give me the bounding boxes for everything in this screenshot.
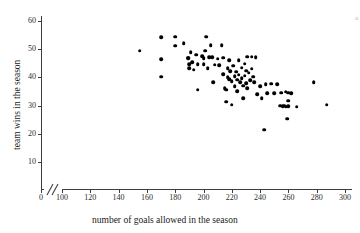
data-point [250,67,254,71]
corner-artifact-mark: a [355,14,358,22]
data-point [243,62,247,66]
data-point [202,63,206,67]
x-tick-label: 220 [226,194,238,202]
y-tick-mark [38,77,42,78]
y-axis-line [41,16,42,190]
data-point [247,71,251,75]
x-tick-label: 120 [84,194,96,202]
data-point [224,100,228,104]
data-point [289,91,293,95]
data-point [258,85,262,89]
data-point [173,44,177,48]
data-point [205,35,209,39]
data-point [312,80,316,84]
data-point [159,35,163,39]
data-point [295,105,299,109]
data-point [230,80,234,84]
data-point [275,82,279,86]
y-tick-mark [38,49,42,50]
y-tick-mark [38,21,42,22]
data-point [230,103,234,107]
x-tick-mark [288,189,289,193]
data-point [229,69,233,73]
data-point [224,88,228,92]
x-tick-mark [90,189,91,193]
x-tick-label: 0 [39,194,43,202]
x-tick-label: 140 [113,194,125,202]
data-point [237,58,241,62]
scatter-plot-figure: 0100120140160180200220240260280300 10203… [0,0,360,233]
x-tick-label: 100 [56,194,68,202]
data-point [260,96,264,100]
data-point [159,75,163,79]
data-point [231,64,235,68]
y-tick-mark [38,162,42,163]
data-point [209,43,213,47]
data-point [240,66,244,70]
data-point [287,99,291,103]
y-tick-mark [38,134,42,135]
x-tick-label: 260 [282,194,294,202]
data-point [188,66,192,70]
data-point [253,81,257,85]
data-point [206,66,210,70]
data-point [217,63,221,67]
x-tick-mark [204,189,205,193]
data-point [213,63,217,67]
data-point [254,55,258,59]
data-point [195,53,199,57]
data-point [212,80,216,84]
data-point [270,82,274,86]
data-point [264,82,268,86]
data-point [216,57,220,61]
x-tick-mark [175,189,176,193]
x-axis-line [41,189,352,190]
x-axis-title: number of goals allowed in the season [92,216,238,226]
data-point [241,96,245,100]
data-point [255,93,259,97]
x-tick-label: 240 [254,194,266,202]
data-point [138,49,142,53]
x-tick-label: 200 [198,194,210,202]
data-point [263,128,267,132]
data-point [248,78,252,82]
x-tick-mark [147,189,148,193]
data-point [227,59,231,63]
data-point [325,103,329,107]
data-point [222,56,226,60]
x-tick-mark [345,189,346,193]
x-tick-label: 160 [141,194,153,202]
y-tick-mark [38,106,42,107]
y-tick-label: 60 [19,17,36,25]
x-tick-label: 300 [339,194,351,202]
x-tick-mark [41,189,42,193]
data-point [233,85,237,89]
data-point [190,60,194,64]
data-point [189,50,193,54]
data-point [246,55,250,59]
data-point [265,91,269,95]
data-point [196,88,200,92]
data-point [285,117,289,121]
data-point [210,56,214,60]
x-tick-mark [260,189,261,193]
data-point [220,43,224,47]
x-tick-mark [232,189,233,193]
data-point [287,104,291,108]
x-tick-mark [119,189,120,193]
data-point [192,68,196,72]
data-point [182,41,186,45]
data-point [272,91,276,95]
data-point [202,56,206,60]
data-point [236,89,240,93]
x-tick-mark [317,189,318,193]
data-point [243,74,247,78]
data-point [250,55,254,59]
x-tick-mark [62,189,63,193]
data-point [246,86,250,90]
data-point [173,35,177,39]
y-axis-title: team wins in the season [13,35,23,175]
x-tick-label: 180 [169,194,181,202]
data-point [186,56,190,60]
data-point [244,81,248,85]
